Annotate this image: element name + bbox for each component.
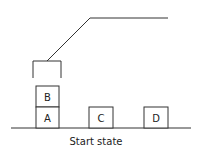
block-label: C [98, 113, 105, 124]
blocks-world-diagram: B A C D [0, 0, 204, 158]
gripper [33, 61, 61, 78]
robot-arm [47, 18, 168, 61]
diagram-caption: Start state [0, 136, 198, 147]
block-a: A [36, 107, 59, 128]
block-label: A [44, 113, 51, 124]
block-d: D [144, 107, 168, 128]
block-label: B [44, 92, 51, 103]
block-c: C [89, 107, 113, 128]
block-label: D [152, 113, 160, 124]
block-b: B [36, 86, 59, 107]
